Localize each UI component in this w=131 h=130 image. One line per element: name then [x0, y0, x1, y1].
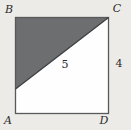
right-side-length-label: 4	[116, 57, 123, 70]
vertex-label-B: B	[4, 3, 13, 16]
geometry-figure: B C A D 5 4	[0, 0, 131, 130]
square-triangle-diagram: B C A D 5 4	[0, 0, 131, 130]
hypotenuse-length-label: 5	[62, 58, 69, 71]
vertex-label-C: C	[113, 2, 122, 15]
vertex-label-D: D	[99, 114, 109, 127]
vertex-label-A: A	[3, 114, 12, 127]
